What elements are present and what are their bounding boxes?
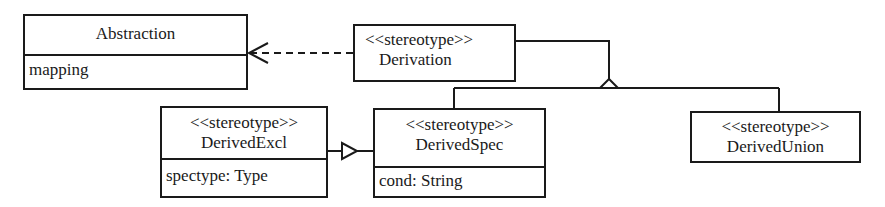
stereotype-label: <<stereotype>>	[692, 117, 859, 137]
class-name: DerivedSpec	[375, 135, 544, 155]
class-derivedspec[interactable]: <<stereotype>> DerivedSpec cond: String	[373, 108, 546, 198]
class-derivation[interactable]: <<stereotype>> Derivation	[353, 24, 516, 82]
class-name: Abstraction	[25, 24, 246, 44]
attributes-section: cond: String	[375, 166, 544, 191]
class-name-section: <<stereotype>> DerivedUnion	[692, 113, 859, 157]
attribute: mapping	[29, 60, 246, 80]
attributes-section: spectype: Type	[162, 158, 326, 186]
class-name-section: <<stereotype>> DerivedExcl	[162, 108, 326, 158]
attribute: spectype: Type	[166, 166, 326, 186]
stereotype-label: <<stereotype>>	[365, 30, 514, 50]
class-name-section: <<stereotype>> Derivation	[355, 26, 514, 70]
attribute: cond: String	[379, 171, 544, 191]
stereotype-label: <<stereotype>>	[162, 113, 326, 133]
class-derivedunion[interactable]: <<stereotype>> DerivedUnion	[690, 111, 861, 163]
class-name: DerivedExcl	[162, 133, 326, 153]
attributes-section: mapping	[25, 54, 246, 80]
class-name: DerivedUnion	[692, 137, 859, 157]
class-name: Derivation	[365, 50, 514, 70]
class-name-section: Abstraction	[25, 16, 246, 54]
class-name-section: <<stereotype>> DerivedSpec	[375, 110, 544, 166]
generalization-line-derivation	[515, 41, 609, 80]
class-abstraction[interactable]: Abstraction mapping	[23, 14, 248, 90]
class-derivedexcl[interactable]: <<stereotype>> DerivedExcl spectype: Typ…	[160, 106, 328, 198]
generalization-triangle-icon	[600, 79, 618, 88]
stereotype-label: <<stereotype>>	[375, 115, 544, 135]
generalization-triangle-icon	[342, 143, 357, 159]
